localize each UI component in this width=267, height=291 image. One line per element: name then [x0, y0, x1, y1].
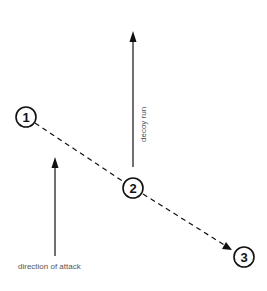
dashed-path-arrowhead-icon — [222, 242, 232, 250]
player-node-1: 1 — [16, 107, 36, 127]
player-node-3: 3 — [234, 247, 254, 267]
direction-of-attack-arrowhead-icon — [52, 157, 59, 168]
player-node-2: 2 — [123, 178, 143, 198]
dashed-path-1-to-2 — [35, 123, 124, 182]
player-node-2-label: 2 — [129, 181, 136, 196]
dashed-path-2-to-3 — [143, 194, 226, 246]
decoy-run-arrowhead-icon — [130, 31, 137, 42]
player-node-3-label: 3 — [240, 250, 247, 265]
decoy-run-label: decoy run — [139, 107, 148, 142]
direction-of-attack-label: direction of attack — [18, 262, 82, 271]
player-node-1-label: 1 — [22, 110, 29, 125]
tactical-diagram: 1 2 3 decoy run direction of attack — [0, 0, 267, 291]
